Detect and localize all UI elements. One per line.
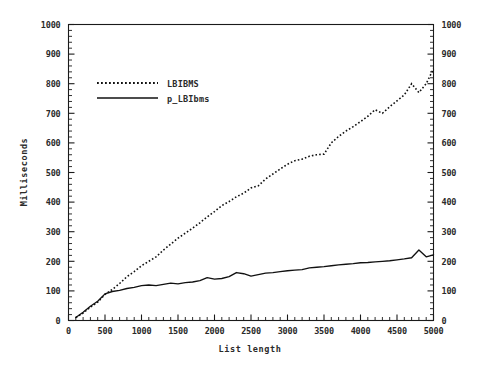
y-tick-label-right: 900 [442,49,457,59]
x-tick-label: 2000 [205,326,225,336]
chart-legend: LBIBMS p_LBIbms [97,79,210,104]
y-tick-label-right: 1000 [442,20,462,30]
y-tick-label-left: 200 [46,257,61,267]
y-tick-label-right: 700 [442,109,457,119]
y-tick-label-left: 900 [46,49,61,59]
y-tick-label-right: 200 [442,257,457,267]
y-tick-label-left: 400 [46,197,61,207]
x-tick-label: 1000 [132,326,152,336]
x-tick-label: 3000 [278,326,298,336]
y-axis-tick-labels-left: 01002003004005006007008009001000 [41,20,61,326]
x-tick-label: 1500 [168,326,188,336]
y-tick-label-left: 1000 [41,20,61,30]
y-tick-label-right: 100 [442,286,457,296]
y-tick-label-left: 600 [46,138,61,148]
legend-label-lbibms: LBIBMS [167,79,199,89]
y-tick-label-right: 600 [442,138,457,148]
y-axis-title: Milliseconds [19,138,29,207]
x-tick-label: 5000 [424,326,444,336]
y-tick-label-left: 800 [46,79,61,89]
legend-label-p-lbibms: p_LBIbms [167,94,210,104]
y-tick-label-right: 300 [442,227,457,237]
x-tick-label: 4000 [351,326,371,336]
data-series-group [76,69,434,318]
x-tick-label: 0 [66,326,71,336]
x-tick-label: 500 [98,326,113,336]
line-chart: 01002003004005006007008009001000 0100200… [0,0,487,373]
y-tick-label-right: 500 [442,168,457,178]
y-tick-label-left: 100 [46,286,61,296]
y-tick-label-left: 700 [46,109,61,119]
x-tick-label: 3500 [314,326,334,336]
x-axis-tick-labels: 0500100015002000250030003500400045005000 [66,326,443,336]
chart-container: 01002003004005006007008009001000 0100200… [0,0,487,373]
x-axis-title: List length [219,344,282,354]
minor-tick-marks [69,30,434,320]
y-tick-label-left: 500 [46,168,61,178]
y-tick-label-left: 300 [46,227,61,237]
y-tick-label-right: 0 [442,316,447,326]
y-tick-label-right: 400 [442,197,457,207]
series-line-p-lbibms [76,250,434,317]
series-line-lbibms [76,69,434,318]
y-axis-tick-labels-right: 01002003004005006007008009001000 [442,20,462,326]
x-tick-label: 2500 [241,326,261,336]
y-tick-label-right: 800 [442,79,457,89]
x-tick-label: 4500 [387,326,407,336]
y-tick-label-left: 0 [56,316,61,326]
